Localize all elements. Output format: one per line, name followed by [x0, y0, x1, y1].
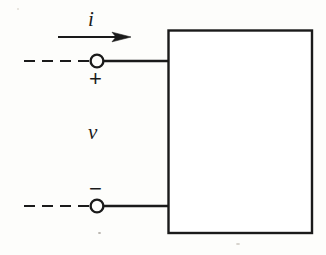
current-direction-arrow — [58, 32, 131, 42]
negative-terminal-node — [91, 200, 104, 213]
scan-speck — [236, 243, 240, 245]
scan-speck — [98, 232, 101, 234]
plus-polarity-label: + — [89, 68, 102, 90]
voltage-label: v — [88, 122, 97, 143]
circuit-diagram-canvas — [0, 0, 326, 255]
circuit-diagram-figure: i v + − — [0, 0, 326, 255]
scan-speck — [17, 8, 19, 10]
current-label: i — [88, 9, 94, 30]
black-box-element — [169, 31, 313, 234]
minus-polarity-label: − — [89, 178, 102, 200]
